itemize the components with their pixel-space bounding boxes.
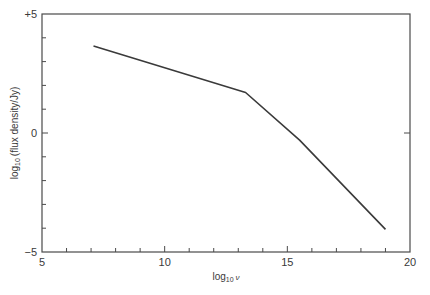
x-axis-tick-labels: 5101520 [39,256,416,268]
plot-frame [42,14,410,252]
y-axis-title: log10(flux density/Jy) [9,87,21,180]
x-tick-label: 15 [281,256,293,268]
x-tick-label: 5 [39,256,45,268]
data-series [94,46,386,229]
y-tick-label: 0 [31,127,37,139]
plot-border [42,14,410,252]
y-axis-ticks [42,38,410,228]
x-tick-label: 10 [159,256,171,268]
x-axis-title: log10ν [212,271,239,283]
y-tick-label: −5 [24,246,37,258]
y-tick-label: +5 [24,8,37,20]
y-axis-tick-labels: +50−5 [24,8,37,258]
chart: 5101520 +50−5 log10ν log10(flux density/… [0,0,430,295]
x-axis-ticks [67,246,386,252]
spectrum-line [94,46,386,229]
x-tick-label: 20 [404,256,416,268]
